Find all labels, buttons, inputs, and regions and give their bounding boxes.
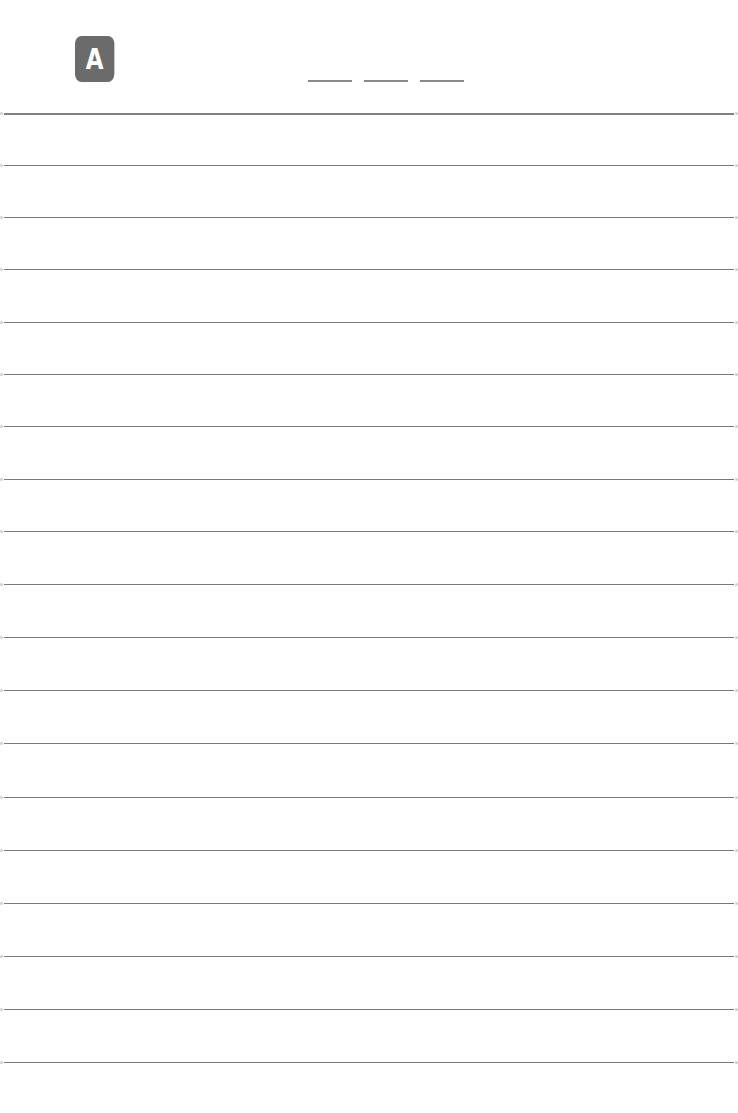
ruled-line <box>4 426 734 427</box>
ruled-line <box>4 374 734 375</box>
ruled-line <box>4 743 734 744</box>
ruled-line <box>4 322 734 323</box>
date-blank-day[interactable] <box>308 80 352 82</box>
ruled-line <box>4 531 734 532</box>
ruled-line <box>4 956 734 957</box>
section-badge: A <box>75 36 114 82</box>
ruled-line <box>4 1009 734 1010</box>
ruled-line <box>4 217 734 218</box>
ruled-line <box>4 850 734 851</box>
ruled-line <box>4 269 734 270</box>
ruled-line <box>4 690 734 691</box>
ruled-line <box>4 165 734 166</box>
ruled-line <box>4 637 734 638</box>
ruled-line <box>4 797 734 798</box>
ruled-line <box>4 584 734 585</box>
ruled-line <box>4 903 734 904</box>
date-blank-month[interactable] <box>364 80 408 82</box>
date-blank-year[interactable] <box>420 80 464 82</box>
ruled-line <box>4 1062 734 1063</box>
ruled-line <box>4 479 734 480</box>
header-rule <box>4 113 734 115</box>
badge-letter: A <box>86 43 104 76</box>
date-field <box>308 80 464 82</box>
